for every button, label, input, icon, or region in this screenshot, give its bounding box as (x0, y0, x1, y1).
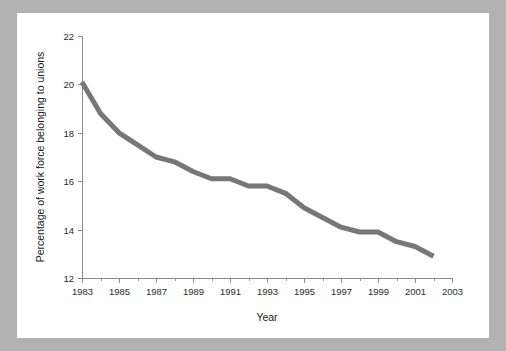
x-axis-tick-label: 1989 (183, 286, 204, 297)
x-axis-tick-label: 1991 (220, 286, 241, 297)
x-axis-tick-group: 1983198519871989199119931995199719992001… (72, 278, 463, 297)
x-axis-tick-label: 1983 (72, 286, 93, 297)
y-axis-title: Percentage of work force belonging to un… (34, 52, 46, 263)
y-axis-tick-label: 18 (63, 128, 74, 139)
y-axis-tick-label: 16 (63, 176, 74, 187)
x-axis-tick-label: 1995 (294, 286, 315, 297)
x-axis-tick-label: 1987 (146, 286, 167, 297)
y-axis-tick-group: 121416182022 (63, 31, 82, 284)
y-axis-tick-label: 14 (63, 225, 74, 236)
data-series-line (82, 82, 434, 256)
figure-root: 121416182022 198319851987198919911993199… (0, 0, 506, 351)
x-axis-tick-label: 1993 (257, 286, 278, 297)
x-axis-tick-label: 1999 (368, 286, 389, 297)
x-axis-tick-label: 2001 (405, 286, 426, 297)
line-chart: 121416182022 198319851987198919911993199… (18, 14, 488, 337)
x-axis-tick-label: 2003 (442, 286, 463, 297)
y-axis-tick-label: 22 (63, 31, 74, 42)
y-axis-tick-label: 20 (63, 79, 74, 90)
y-axis-tick-label: 12 (63, 273, 74, 284)
x-axis-tick-label: 1997 (331, 286, 352, 297)
x-axis-tick-label: 1985 (109, 286, 130, 297)
chart-panel: 121416182022 198319851987198919911993199… (18, 14, 488, 337)
x-axis-title: Year (256, 311, 278, 323)
